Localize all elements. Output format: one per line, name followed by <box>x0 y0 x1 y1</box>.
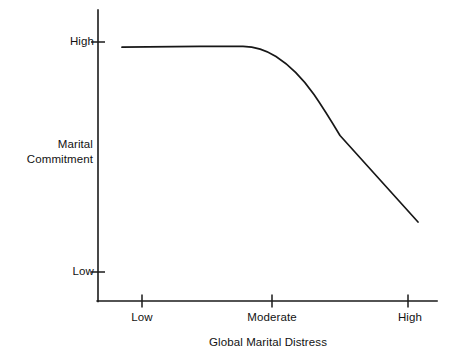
y-tick-label-high: High <box>70 35 94 49</box>
x-axis-title: Global Marital Distress <box>209 336 327 350</box>
x-tick-label-high: High <box>398 311 422 325</box>
plot-area <box>0 0 454 358</box>
x-tick-label-low: Low <box>131 311 152 325</box>
x-tick-label-moderate: Moderate <box>247 311 296 325</box>
data-curve-marital-commitment <box>122 46 418 222</box>
y-axis-title: Marital Commitment <box>27 137 93 166</box>
y-axis-title-line-2: Commitment <box>27 152 93 167</box>
y-axis-title-line-1: Marital <box>27 137 93 152</box>
chart-figure: High Low Marital Commitment Low Moderate… <box>0 0 454 358</box>
y-tick-label-low: Low <box>73 265 94 279</box>
